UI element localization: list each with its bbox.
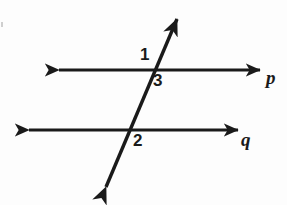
angle-label-3: 3 (153, 72, 162, 89)
angle-label-1: 1 (140, 46, 149, 63)
scan-artifact-mark (1, 22, 3, 27)
line-label-q: q (241, 130, 251, 149)
geometry-diagram-canvas (0, 0, 287, 205)
geometry-figure: 1 3 2 p q (0, 0, 287, 205)
angle-label-2: 2 (133, 132, 142, 149)
line-label-p: p (266, 68, 276, 87)
